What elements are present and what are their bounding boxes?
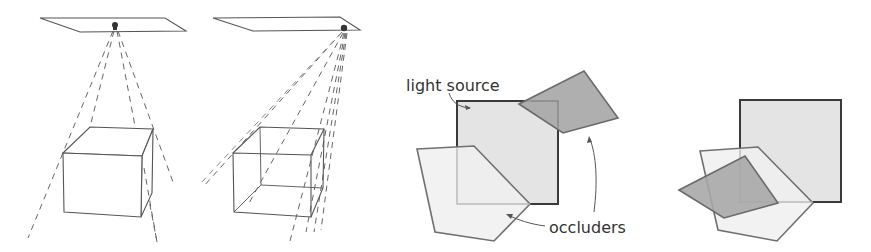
box <box>63 127 153 217</box>
occluders-label: occluders <box>549 218 626 237</box>
box <box>233 127 324 217</box>
light-source-label: light source <box>406 76 500 95</box>
occluders-arrow-up <box>590 139 596 212</box>
area-light-panel <box>200 17 360 241</box>
shadow-rays <box>200 32 347 241</box>
occluders-overlap-panel <box>679 100 841 241</box>
diagram-figure: light source occluders <box>0 0 871 252</box>
light-source-occluders-panel: light source occluders <box>406 71 626 241</box>
ceiling-plate <box>213 17 360 31</box>
point-light-panel <box>28 18 186 242</box>
light-bulb-icon <box>341 25 347 31</box>
light-bulb-icon <box>112 22 118 30</box>
